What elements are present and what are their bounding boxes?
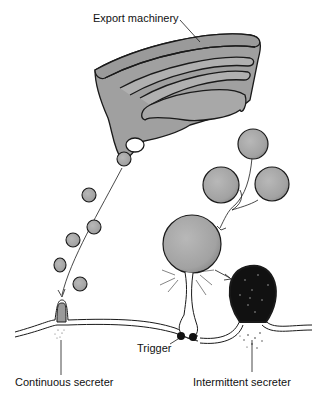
intermittent-secreter-label: Intermittent secreter (193, 376, 291, 388)
fusing-vesicle (57, 303, 66, 322)
continuous-secreter-label: Continuous secreter (15, 376, 113, 388)
continuous-pathway (54, 152, 131, 297)
golgi-apparatus (95, 34, 260, 160)
continuous-release-stipple (55, 329, 65, 338)
trigger-label: Trigger (137, 342, 171, 354)
trigger-structure (160, 270, 231, 341)
regulated-vesicles (163, 129, 289, 273)
secretory-granule (230, 266, 276, 349)
export-machinery-label: Export machinery (93, 12, 179, 24)
